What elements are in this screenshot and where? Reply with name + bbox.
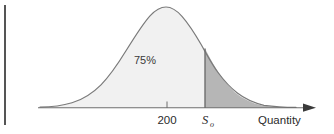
- threshold-label-s0-subscript: o: [210, 120, 214, 129]
- area-percent-label: 75%: [134, 54, 156, 66]
- left-margin-rule: [4, 5, 6, 125]
- figure-container: 75% 200 S o Quantity: [0, 0, 334, 134]
- distribution-chart: 75% 200 S o Quantity: [0, 0, 334, 134]
- tick-label-200: 200: [157, 114, 176, 126]
- x-axis-label: Quantity: [258, 114, 301, 126]
- threshold-label-s0-main: S: [202, 113, 209, 127]
